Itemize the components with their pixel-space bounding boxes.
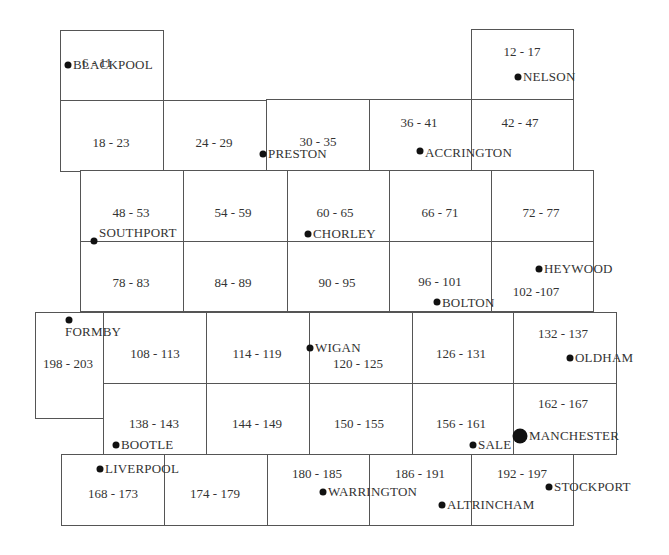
cell-range-label: 126 - 131 xyxy=(436,346,486,362)
town-marker-icon xyxy=(439,502,446,509)
town-label: BOOTLE xyxy=(121,437,173,453)
town-marker-icon xyxy=(65,62,72,69)
town-marker-icon xyxy=(113,442,120,449)
cell-range-label: 186 - 191 xyxy=(395,466,445,482)
cell-range-label: 12 - 17 xyxy=(504,44,541,60)
cell-range-label: 24 - 29 xyxy=(196,135,233,151)
map-cell xyxy=(369,99,472,172)
cell-range-label: 150 - 155 xyxy=(334,416,384,432)
cell-range-label: 60 - 65 xyxy=(317,205,354,221)
cell-range-label: 54 - 59 xyxy=(215,205,252,221)
town-label: HEYWOOD xyxy=(544,261,613,277)
cell-range-label: 162 - 167 xyxy=(538,396,588,412)
cell-range-label: 198 - 203 xyxy=(43,356,93,372)
town-label: CHORLEY xyxy=(313,226,376,242)
town-marker-icon xyxy=(305,231,312,238)
town-marker-icon xyxy=(91,238,98,245)
cell-range-label: 66 - 71 xyxy=(422,205,459,221)
town-label: WIGAN xyxy=(315,340,361,356)
cell-range-label: 174 - 179 xyxy=(190,486,240,502)
town-label: BOLTON xyxy=(442,295,495,311)
cell-range-label: 144 - 149 xyxy=(232,416,282,432)
cell-range-label: 192 - 197 xyxy=(497,466,547,482)
cell-range-label: 156 - 161 xyxy=(436,416,486,432)
town-label: SALE xyxy=(478,437,511,453)
town-marker-icon xyxy=(546,484,553,491)
town-marker-icon xyxy=(515,74,522,81)
cell-range-label: 96 - 101 xyxy=(418,274,461,290)
cell-range-label: 108 - 113 xyxy=(130,346,179,362)
town-label: STOCKPORT xyxy=(554,479,631,495)
map-cell xyxy=(471,29,574,101)
town-label: LIVERPOOL xyxy=(105,461,179,477)
cell-range-label: 114 - 119 xyxy=(233,346,282,362)
town-label: BLACKPOOL xyxy=(73,57,153,73)
cell-range-label: 36 - 41 xyxy=(401,115,438,131)
town-label: MANCHESTER xyxy=(529,428,619,444)
town-label: SOUTHPORT xyxy=(99,225,177,241)
map-cell xyxy=(471,99,574,172)
cell-range-label: 78 - 83 xyxy=(113,275,150,291)
cell-range-label: 18 - 23 xyxy=(93,135,130,151)
town-marker-icon xyxy=(417,148,424,155)
cell-range-label: 90 - 95 xyxy=(319,275,356,291)
town-marker-icon xyxy=(434,299,441,306)
cell-range-label: 132 - 137 xyxy=(538,326,588,342)
cell-range-label: 120 - 125 xyxy=(333,356,383,372)
town-label: WARRINGTON xyxy=(328,484,417,500)
map-cell xyxy=(513,383,617,455)
cell-range-label: 180 - 185 xyxy=(292,466,342,482)
town-marker-icon xyxy=(320,489,327,496)
town-marker-icon xyxy=(470,442,477,449)
town-label: OLDHAM xyxy=(575,350,633,366)
town-label: ALTRINCHAM xyxy=(447,497,534,513)
town-marker-icon xyxy=(513,429,528,444)
town-label: FORMBY xyxy=(65,324,121,340)
cell-range-label: 138 - 143 xyxy=(129,416,179,432)
town-label: NELSON xyxy=(523,69,575,85)
town-marker-icon xyxy=(66,317,73,324)
cell-range-label: 102 -107 xyxy=(513,284,560,300)
cell-range-label: 84 - 89 xyxy=(215,275,252,291)
town-marker-icon xyxy=(536,266,543,273)
town-marker-icon xyxy=(307,345,314,352)
town-marker-icon xyxy=(97,466,104,473)
town-marker-icon xyxy=(260,151,267,158)
town-label: PRESTON xyxy=(268,146,327,162)
grid-map: 6 - 1112 - 1718 - 2324 - 2930 - 3536 - 4… xyxy=(0,0,669,555)
map-cell xyxy=(513,312,617,384)
town-marker-icon xyxy=(567,355,574,362)
cell-range-label: 168 - 173 xyxy=(88,486,138,502)
town-label: ACCRINGTON xyxy=(425,145,512,161)
cell-range-label: 42 - 47 xyxy=(502,115,539,131)
cell-range-label: 48 - 53 xyxy=(113,205,150,221)
cell-range-label: 72 - 77 xyxy=(523,205,560,221)
